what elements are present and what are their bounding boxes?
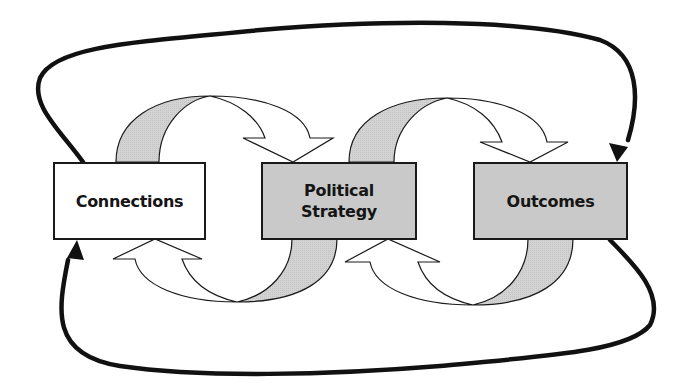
node-political-strategy: Political Strategy (261, 162, 417, 240)
node-outcomes-label: Outcomes (507, 191, 595, 212)
node-connections-label: Connections (76, 191, 184, 212)
loop-arrowhead-icon (609, 143, 628, 162)
node-outcomes: Outcomes (473, 162, 628, 240)
arrow-strategy-to-outcomes (349, 98, 568, 162)
node-connections: Connections (53, 162, 206, 240)
arrow-strategy-to-connections (113, 239, 337, 302)
node-political-strategy-label: Political Strategy (301, 180, 377, 222)
loop-arrowhead-icon (67, 240, 84, 260)
arrow-connections-to-strategy (116, 96, 333, 162)
arrow-outcomes-to-strategy (345, 239, 573, 305)
